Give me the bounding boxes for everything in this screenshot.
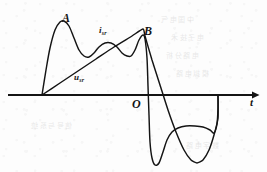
current-waveform-curve — [42, 21, 218, 166]
time-axis-arrowhead — [252, 91, 260, 98]
waveform-figure: 中国电气 电子技术 电路分析 模拟电路 信号与系统 数字电路 A B isr u… — [0, 0, 267, 172]
waveform-plot-canvas — [0, 0, 267, 172]
